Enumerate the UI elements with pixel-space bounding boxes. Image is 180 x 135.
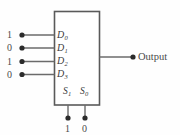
input-value-d2: 1 — [7, 57, 12, 67]
mux-diagram-canvas: 1 0 1 0 D0 D1 D2 D3 S1 S0 1 0 Output — [0, 0, 180, 135]
terminal-dot-d0 — [19, 32, 24, 37]
port-letter-d3: D — [57, 68, 64, 79]
mux-schematic — [0, 0, 180, 135]
input-value-s1: 1 — [65, 124, 70, 134]
terminal-dot-s0 — [82, 115, 87, 120]
terminal-dot-d1 — [19, 45, 24, 50]
port-label-s1: S1 — [63, 87, 71, 97]
port-index-d1: 1 — [65, 47, 68, 54]
port-index-d3: 3 — [65, 73, 68, 80]
input-value-s0: 0 — [82, 124, 87, 134]
input-value-d1: 0 — [7, 43, 12, 53]
port-label-d3: D3 — [57, 69, 67, 79]
output-label: Output — [138, 52, 167, 63]
port-letter-d2: D — [57, 55, 64, 66]
input-value-d0: 1 — [7, 30, 12, 40]
terminal-dot-d2 — [19, 59, 24, 64]
port-letter-d1: D — [57, 42, 64, 53]
port-letter-d0: D — [57, 29, 64, 40]
port-index-d0: 0 — [65, 34, 68, 41]
input-value-d3: 0 — [7, 70, 12, 80]
port-label-d0: D0 — [57, 30, 67, 40]
port-label-s0: S0 — [80, 87, 88, 97]
terminal-dot-s1 — [65, 115, 70, 120]
terminal-dot-output — [130, 54, 135, 59]
terminal-dot-d3 — [19, 72, 24, 77]
port-label-d1: D1 — [57, 43, 67, 53]
port-label-d2: D2 — [57, 56, 67, 66]
port-index-s1: 1 — [68, 90, 71, 97]
port-index-s0: 0 — [85, 90, 88, 97]
port-index-d2: 2 — [65, 60, 68, 67]
